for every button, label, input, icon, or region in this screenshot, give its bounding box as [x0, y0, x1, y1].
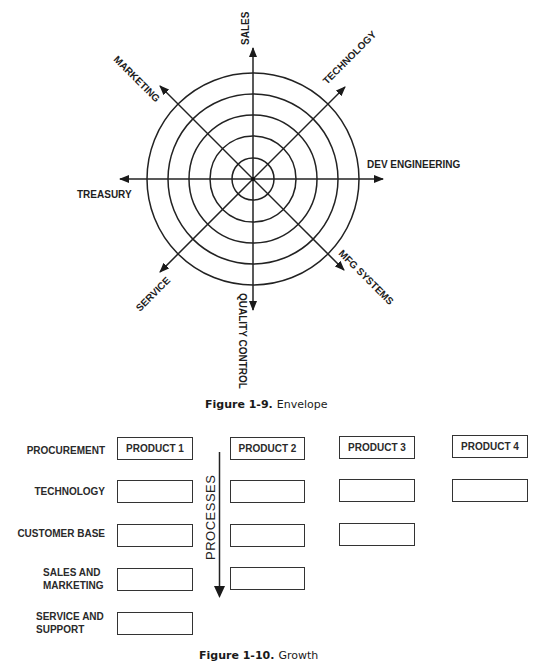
product-2-sales-marketing-box — [230, 567, 305, 590]
caption-number: Figure 1-10. — [199, 649, 274, 662]
row-label-technology: TECHNOLOGY — [0, 485, 105, 498]
product-3-header-box: PRODUCT 3 — [339, 436, 415, 459]
axis-label-technology: TECHNOLOGY — [321, 29, 379, 87]
product-1-customer-base-box — [117, 524, 193, 547]
product-3-technology-box — [339, 479, 415, 502]
row-label-line: SALES AND — [43, 566, 113, 579]
figure-1-9-caption: Figure 1-9.Envelope — [205, 398, 328, 411]
row-label-sales-and-marketing: SALES AND MARKETING — [43, 566, 113, 592]
caption-title: Growth — [278, 649, 318, 662]
processes-label: PROCESSES — [203, 475, 218, 560]
row-label-customer-base: CUSTOMER BASE — [0, 527, 105, 540]
axis-label-mfg-systems: MFG SYSTEMS — [337, 248, 396, 307]
axis-label-sales: SALES — [240, 11, 251, 45]
product-1-technology-box — [117, 480, 193, 503]
axis-label-treasury: TREASURY — [77, 189, 132, 200]
axis-label-dev-engineering: DEV ENGINEERING — [367, 159, 461, 170]
axis-label-marketing: MARKETING — [112, 54, 163, 105]
envelope-diagram: SALES TECHNOLOGY DEV ENGINEERING MFG SYS… — [0, 0, 558, 420]
product-2-technology-box — [230, 480, 305, 503]
figure-1-10-caption: Figure 1-10.Growth — [199, 649, 318, 662]
axis-label-quality-control: QUALITY CONTROL — [237, 293, 248, 389]
caption-number: Figure 1-9. — [205, 398, 273, 411]
row-label-service-and-support: SERVICE AND SUPPORT — [36, 610, 116, 636]
product-1-sales-marketing-box — [117, 568, 193, 591]
product-3-customer-base-box — [339, 523, 415, 546]
axis-service-arrow — [160, 179, 253, 272]
axis-marketing-arrow — [160, 86, 253, 179]
product-2-customer-base-box — [230, 524, 305, 547]
product-2-header-box: PRODUCT 2 — [230, 437, 305, 460]
row-label-line: SUPPORT — [36, 623, 116, 636]
axis-mfg-systems-arrow — [253, 179, 344, 270]
row-label-procurement: PROCUREMENT — [0, 444, 105, 457]
axis-technology-arrow — [253, 87, 345, 179]
product-4-header-box: PRODUCT 4 — [452, 435, 528, 458]
row-label-line: MARKETING — [43, 579, 113, 592]
row-label-line: SERVICE AND — [36, 610, 116, 623]
caption-title: Envelope — [277, 398, 328, 411]
product-1-header-box: PRODUCT 1 — [117, 437, 193, 460]
axis-label-service: SERVICE — [134, 274, 173, 313]
product-1-service-support-box — [117, 612, 193, 635]
product-4-technology-box — [452, 479, 528, 502]
